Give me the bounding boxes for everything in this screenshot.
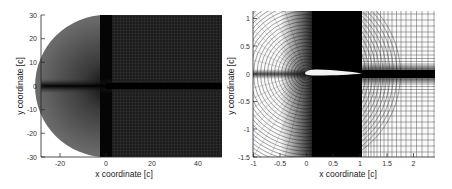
- left-mesh-plot: 30 20 10 0 -10 -20 -30 -20 0 20 40 x coo…: [0, 0, 226, 189]
- left-mesh-svg: 30 20 10 0 -10 -20 -30 -20 0 20 40 x coo…: [0, 0, 226, 189]
- x-tick: -20: [55, 160, 65, 167]
- y-tick: -1.5: [238, 154, 250, 161]
- y-tick: 30: [29, 12, 37, 19]
- y-tick: -20: [27, 130, 37, 137]
- y-tick: 1: [246, 15, 250, 22]
- airfoil-band: [312, 11, 362, 157]
- x-axis-label: x coordinate [c]: [319, 169, 377, 179]
- right-mesh-svg: 1 0.5 0 -0.5 -1 -1.5 -1 -0.5 0 0.5 1 1.5…: [226, 0, 452, 189]
- y-tick: 10: [29, 59, 37, 66]
- y-axis-label: y coordinate [c]: [15, 57, 25, 115]
- y-tick: 0.5: [240, 43, 250, 50]
- x-tick: -0.5: [274, 160, 286, 167]
- x-tick: 1.5: [382, 160, 392, 167]
- x-tick: 40: [194, 160, 202, 167]
- x-tick: 1: [358, 160, 362, 167]
- y-tick: 20: [29, 35, 37, 42]
- x-tick: -1: [250, 160, 256, 167]
- y-tick: -10: [27, 106, 37, 113]
- x-tick: 20: [148, 160, 156, 167]
- x-axis-label: x coordinate [c]: [95, 169, 153, 179]
- y-tick: -0.5: [238, 98, 250, 105]
- x-tick: 0: [104, 160, 108, 167]
- right-mesh-plot: 1 0.5 0 -0.5 -1 -1.5 -1 -0.5 0 0.5 1 1.5…: [226, 0, 452, 189]
- y-tick: 0: [246, 71, 250, 78]
- y-axis-label: y coordinate [c]: [226, 57, 236, 115]
- x-tick: 0: [305, 160, 309, 167]
- y-tick: -30: [27, 154, 37, 161]
- y-tick: 0: [33, 83, 37, 90]
- y-tick: -1: [244, 126, 250, 133]
- x-tick: 0.5: [328, 160, 338, 167]
- x-tick: 2: [412, 160, 416, 167]
